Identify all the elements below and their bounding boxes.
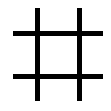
horizontal-line-bottom [13, 74, 103, 79]
vertical-line-right [77, 8, 82, 101]
vertical-line-left [35, 8, 40, 101]
horizontal-line-top [13, 31, 103, 36]
hash-grid-icon [0, 0, 111, 111]
